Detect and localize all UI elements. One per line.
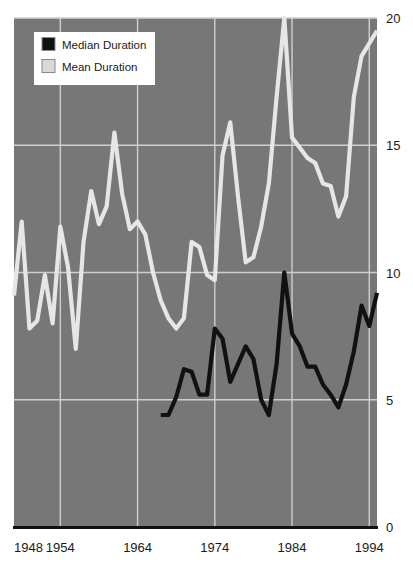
y-tick-label-0: 0 (386, 520, 393, 535)
duration-line-chart: 194819541964197419841994 05101520 Median… (0, 0, 413, 570)
y-axis-tick-labels: 05101520 (386, 11, 400, 535)
x-tick-label-1984: 1984 (278, 540, 307, 555)
y-tick-label-15: 15 (386, 138, 400, 153)
x-tick-label-1974: 1974 (200, 540, 229, 555)
y-tick-label-20: 20 (386, 11, 400, 26)
y-tick-label-5: 5 (386, 393, 393, 408)
x-tick-label-1964: 1964 (123, 540, 152, 555)
y-tick-label-10: 10 (386, 266, 400, 281)
x-tick-label-1948: 1948 (14, 540, 43, 555)
chart-legend: Median DurationMean Duration (34, 32, 155, 85)
x-tick-label-1954: 1954 (46, 540, 75, 555)
x-tick-label-1994: 1994 (355, 540, 384, 555)
legend-label-median: Median Duration (62, 39, 146, 51)
legend-swatch-mean (42, 60, 55, 73)
chart-canvas: 194819541964197419841994 05101520 Median… (0, 0, 413, 570)
legend-swatch-median (42, 38, 55, 51)
x-axis-tick-labels: 194819541964197419841994 (14, 540, 384, 555)
legend-label-mean: Mean Duration (62, 61, 137, 73)
